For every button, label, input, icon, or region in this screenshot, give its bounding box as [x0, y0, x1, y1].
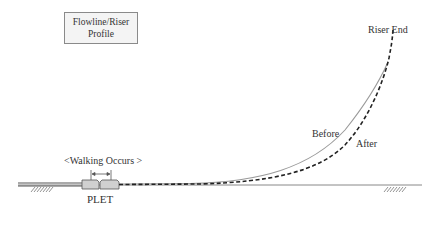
seabed-hatch-right-icon	[384, 187, 406, 192]
after-curve	[119, 30, 393, 185]
after-label: After	[356, 138, 377, 149]
plet	[82, 180, 119, 189]
seabed-hatch-left-icon	[31, 187, 53, 192]
walking-arrow-icon	[91, 170, 111, 180]
riser-end-label: Riser End	[368, 24, 408, 35]
plet-label: PLET	[87, 193, 113, 205]
before-curve	[119, 62, 388, 184]
before-label: Before	[312, 128, 339, 139]
walking-occurs-label: <Walking Occurs >	[64, 155, 142, 166]
